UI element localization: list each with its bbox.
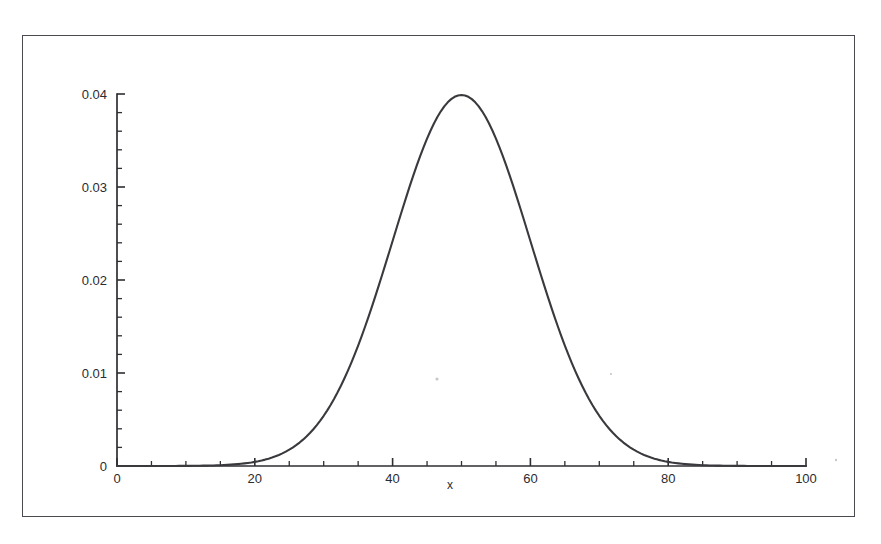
- cropped-top-text: [30, 0, 360, 5]
- figure-frame: [22, 35, 855, 517]
